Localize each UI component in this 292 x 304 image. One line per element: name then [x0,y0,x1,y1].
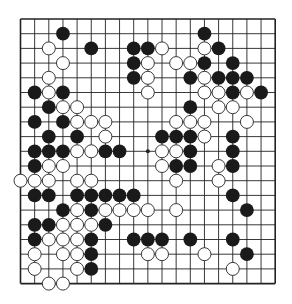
black-stone [70,189,84,203]
white-stone [170,204,183,217]
black-stone [226,56,240,70]
black-stone [226,159,240,173]
white-stone [71,233,84,246]
white-stone [198,86,211,99]
white-stone [170,174,183,187]
white-stone [198,42,211,55]
white-stone [85,218,98,231]
white-stone [71,204,84,217]
white-stone [141,71,154,84]
black-stone [183,71,197,85]
white-stone [42,233,55,246]
black-stone [99,189,113,203]
white-stone [56,277,69,290]
black-stone [183,233,197,247]
black-stone [56,203,70,217]
black-stone [28,159,42,173]
black-stone [226,130,240,144]
white-stone [184,57,197,70]
white-stone [99,115,112,128]
star-points [146,149,150,153]
white-stone [212,101,225,114]
white-stone [56,57,69,70]
white-stone [42,160,55,173]
white-stone [170,115,183,128]
white-stone [170,145,183,158]
black-stone [84,262,98,276]
white-stone [71,174,84,187]
black-stone [226,233,240,247]
white-stone [99,204,112,217]
white-stone [85,174,98,187]
black-stone [28,218,42,232]
white-stone [156,145,169,158]
black-stone [56,115,70,129]
black-stone [28,86,42,100]
black-stone [127,42,141,56]
white-stone [42,42,55,55]
black-stone [42,100,56,114]
black-stone [28,233,42,247]
star-point-icon [146,149,150,153]
black-stone [169,130,183,144]
white-stone [198,71,211,84]
black-stone [226,144,240,158]
white-stone [156,160,169,173]
black-stone [183,159,197,173]
black-stone [198,27,212,41]
white-stone [212,86,225,99]
black-stone [113,144,127,158]
black-stone [28,144,42,158]
black-stone [183,144,197,158]
black-stone [183,130,197,144]
black-stone [42,144,56,158]
black-stone [226,189,240,203]
white-stone [56,218,69,231]
white-stone [56,101,69,114]
white-stone [28,174,41,187]
white-stone [42,174,55,187]
black-stone [127,71,141,85]
white-stone [212,160,225,173]
white-stone [226,262,239,275]
white-stone [156,248,169,261]
white-stone [198,248,211,261]
black-stone [42,130,56,144]
black-stone [155,130,169,144]
black-stone [169,159,183,173]
white-stone [42,86,55,99]
white-stone [42,277,55,290]
white-stone [71,115,84,128]
white-stone [141,86,154,99]
white-stone [141,248,154,261]
black-stone [84,189,98,203]
black-stone [70,130,84,144]
white-stone [99,130,112,143]
white-stone [127,204,140,217]
white-stone [42,71,55,84]
white-stone [198,115,211,128]
white-stone [28,248,41,261]
white-stone [141,57,154,70]
white-stone [156,42,169,55]
go-board[interactable] [0,0,292,304]
white-stone [141,204,154,217]
white-stone [170,57,183,70]
white-stone [113,204,126,217]
black-stone [127,189,141,203]
black-stone [84,247,98,261]
black-stone [28,115,42,129]
black-stone [254,86,268,100]
black-stone [212,71,226,85]
black-stone [84,233,98,247]
black-stone [99,218,113,232]
white-stone [198,130,211,143]
white-stone [85,115,98,128]
black-stone [141,42,155,56]
white-stone [28,262,41,275]
white-stone [240,86,253,99]
black-stone [183,100,197,114]
white-stone [14,174,27,187]
black-stone [56,27,70,41]
black-stone [226,86,240,100]
